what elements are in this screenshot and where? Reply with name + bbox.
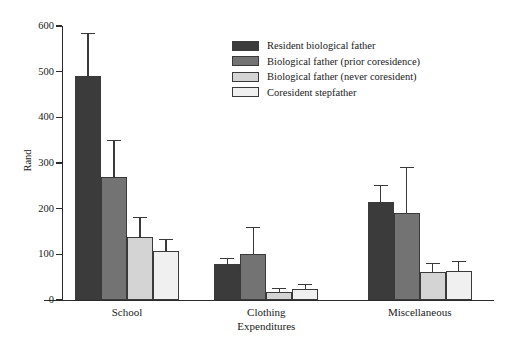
- legend-label: Biological father (never coresident): [267, 71, 417, 82]
- error-bar-cap: [400, 167, 414, 168]
- y-axis-tick-label: 600: [0, 21, 54, 31]
- legend-label: Coresident stepfather: [267, 87, 357, 98]
- y-axis-tick-value: 100: [24, 249, 54, 259]
- error-bar-stem: [279, 289, 280, 292]
- error-bar-stem: [432, 264, 433, 272]
- bar[interactable]: [75, 76, 101, 300]
- y-axis-tick: [56, 208, 62, 209]
- y-axis-tick-label: 500: [0, 67, 54, 77]
- x-axis-category-label: Clothing: [214, 306, 318, 318]
- error-bar-cap: [298, 284, 312, 285]
- y-axis-tick-value: 400: [24, 112, 54, 122]
- legend-swatch: [232, 56, 259, 66]
- bar[interactable]: [446, 271, 472, 300]
- error-bar-cap: [81, 33, 95, 34]
- legend: Resident biological fatherBiological fat…: [232, 38, 420, 100]
- x-axis-title: Expenditures: [214, 320, 318, 332]
- y-axis-tick-value: 200: [24, 204, 54, 214]
- y-axis-tick-label: 400: [0, 112, 54, 122]
- error-bar-cap: [374, 185, 388, 186]
- y-axis-tick-value: 0: [24, 295, 54, 305]
- bar[interactable]: [240, 254, 266, 300]
- x-axis-category-label: Miscellaneous: [368, 306, 472, 318]
- error-bar-stem: [458, 262, 459, 271]
- bar-slot: [101, 26, 127, 300]
- error-bar-cap: [272, 288, 286, 289]
- y-axis-tick-value: 500: [24, 67, 54, 77]
- y-axis-tick: [56, 162, 62, 163]
- legend-item[interactable]: Biological father (never coresident): [232, 69, 420, 85]
- x-axis-line: [44, 300, 494, 301]
- error-bar-cap: [426, 263, 440, 264]
- y-axis-tick: [56, 254, 62, 255]
- y-axis-tick: [56, 25, 62, 26]
- error-bar-stem: [406, 168, 407, 213]
- bar[interactable]: [127, 237, 153, 300]
- bar[interactable]: [368, 202, 394, 300]
- bar[interactable]: [153, 251, 179, 300]
- bar-slot: [420, 26, 446, 300]
- legend-label: Resident biological father: [267, 40, 375, 51]
- bar-slot: [127, 26, 153, 300]
- bar[interactable]: [292, 289, 318, 300]
- bar[interactable]: [266, 292, 292, 300]
- error-bar-stem: [165, 240, 166, 251]
- bar-group: [75, 26, 179, 300]
- error-bar-cap: [159, 239, 173, 240]
- bar[interactable]: [394, 213, 420, 300]
- bar[interactable]: [101, 177, 127, 300]
- bar-slot: [153, 26, 179, 300]
- error-bar-stem: [139, 218, 140, 237]
- legend-swatch: [232, 41, 259, 51]
- y-axis-tick-label: 100: [0, 249, 54, 259]
- legend-item[interactable]: Coresident stepfather: [232, 85, 420, 101]
- x-axis-category-label: School: [75, 306, 179, 318]
- error-bar-cap: [452, 261, 466, 262]
- y-axis-tick: [56, 299, 62, 300]
- error-bar-cap: [246, 227, 260, 228]
- y-axis-title: Rand: [22, 131, 33, 191]
- legend-label: Biological father (prior coresidence): [267, 56, 420, 67]
- error-bar-cap: [220, 258, 234, 259]
- y-axis-tick-label: 200: [0, 204, 54, 214]
- error-bar-stem: [227, 259, 228, 264]
- legend-swatch: [232, 87, 259, 97]
- error-bar-cap: [107, 140, 121, 141]
- error-bar-cap: [133, 217, 147, 218]
- error-bar-stem: [113, 141, 114, 177]
- y-axis-tick-label: 0: [0, 295, 54, 305]
- y-axis-tick: [56, 117, 62, 118]
- y-axis-tick-value: 600: [24, 21, 54, 31]
- error-bar-stem: [380, 186, 381, 202]
- error-bar-stem: [87, 34, 88, 76]
- bar-chart: 0100200300400500600 Rand SchoolClothingM…: [0, 0, 508, 348]
- legend-swatch: [232, 72, 259, 82]
- legend-item[interactable]: Biological father (prior coresidence): [232, 54, 420, 70]
- bar-slot: [75, 26, 101, 300]
- y-axis-tick: [56, 71, 62, 72]
- error-bar-stem: [305, 285, 306, 289]
- legend-item[interactable]: Resident biological father: [232, 38, 420, 54]
- bar[interactable]: [420, 272, 446, 300]
- bar[interactable]: [214, 264, 240, 300]
- bar-slot: [446, 26, 472, 300]
- error-bar-stem: [253, 228, 254, 254]
